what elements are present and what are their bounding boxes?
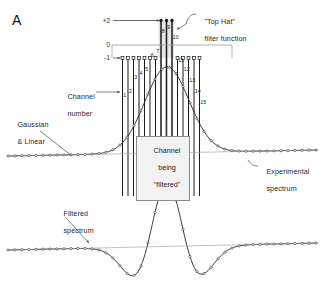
figure-root: A +2 0 -1 "Top Hat" filter function Chan… bbox=[0, 0, 325, 281]
channel-number-14: 14 bbox=[195, 88, 201, 94]
gaussian-linear-label-line1: Gaussian bbox=[17, 120, 48, 129]
filtered-spectrum-label: Filtered spectrum bbox=[55, 202, 94, 243]
channel-number-5: 5 bbox=[145, 66, 148, 72]
top-hat-label-line2: filter function bbox=[204, 34, 246, 43]
gaussian-linear-label-line2: & Linear bbox=[17, 137, 45, 146]
channel-being-filtered-line3: "filtered" bbox=[154, 180, 181, 189]
channel-being-filtered-box: Channel being "filtered" bbox=[136, 136, 190, 201]
channel-being-filtered-line1: Channel bbox=[154, 146, 181, 155]
channel-number-3: 3 bbox=[134, 74, 137, 80]
channel-number-9: 9 bbox=[167, 24, 170, 30]
axis-tick-minus-one: -1 bbox=[96, 54, 110, 61]
channel-number-7: 7 bbox=[156, 48, 159, 54]
top-hat-label-line1: "Top Hat" bbox=[204, 17, 235, 26]
channel-number-2: 2 bbox=[129, 88, 132, 94]
channel-being-filtered-line2: being bbox=[158, 163, 176, 172]
experimental-spectrum-line2: spectrum bbox=[266, 184, 296, 193]
top-hat-label: "Top Hat" filter function bbox=[196, 10, 247, 51]
channel-number-11: 11 bbox=[178, 57, 184, 63]
channel-number-6: 6 bbox=[151, 52, 154, 58]
channel-number-label: Channel number bbox=[59, 85, 95, 126]
channel-number-1: 1 bbox=[123, 92, 126, 98]
gaussian-linear-label: Gaussian & Linear bbox=[9, 113, 49, 154]
channel-number-label-line1: Channel bbox=[67, 92, 94, 101]
channel-number-4: 4 bbox=[140, 70, 143, 76]
experimental-spectrum-line1: Experimental bbox=[266, 167, 309, 176]
channel-number-10: 10 bbox=[173, 34, 179, 40]
channel-number-15: 15 bbox=[200, 99, 206, 105]
experimental-spectrum-label: Experimental spectrum bbox=[258, 160, 310, 201]
panel-letter-a: A bbox=[12, 12, 21, 28]
channel-number-label-line2: number bbox=[67, 109, 92, 118]
filtered-spectrum-line2: spectrum bbox=[63, 226, 93, 235]
channel-number-13: 13 bbox=[189, 77, 195, 83]
filtered-spectrum-line1: Filtered bbox=[63, 209, 88, 218]
channel-number-12: 12 bbox=[184, 66, 190, 72]
axis-tick-plus-two: +2 bbox=[96, 17, 110, 24]
channel-number-8: 8 bbox=[162, 28, 165, 34]
axis-tick-zero: 0 bbox=[96, 41, 110, 48]
